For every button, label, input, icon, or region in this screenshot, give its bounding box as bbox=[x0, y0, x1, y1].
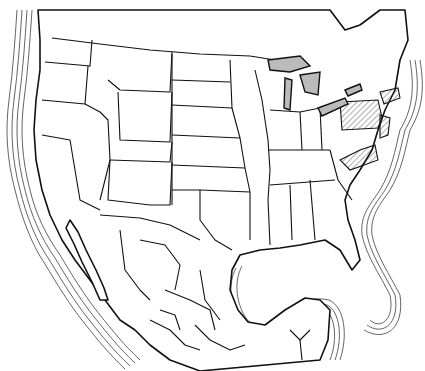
new-jersey-hatched bbox=[380, 115, 390, 138]
north-america-map bbox=[0, 0, 425, 371]
